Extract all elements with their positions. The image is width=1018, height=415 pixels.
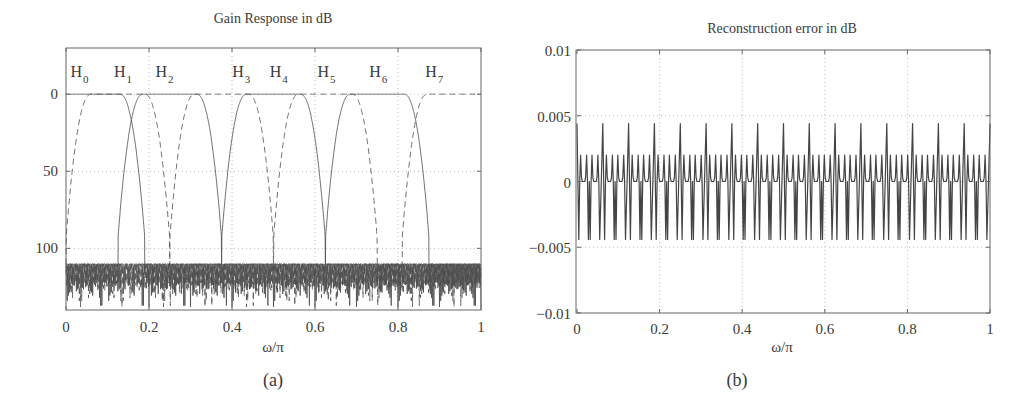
x-tick-label: 1 bbox=[477, 319, 485, 335]
x-tick-label: 0.4 bbox=[223, 319, 242, 335]
error-line bbox=[577, 124, 990, 240]
x-tick-label: 0 bbox=[573, 321, 581, 337]
band-label-h1: H1 bbox=[114, 63, 132, 85]
error-curve bbox=[577, 124, 990, 240]
x-tick-label: 0.2 bbox=[650, 321, 669, 337]
reconstruction-error-chart: Reconstruction error in dB 00.20.40.60.8… bbox=[509, 0, 1018, 415]
chart-title: Gain Response in dB bbox=[214, 11, 333, 26]
x-tick-label: 0.8 bbox=[389, 319, 408, 335]
axis-ticks: 00.20.40.60.81050100 bbox=[36, 48, 485, 335]
x-tick-label: 0.6 bbox=[815, 321, 834, 337]
x-tick-label: 0.2 bbox=[140, 319, 159, 335]
filter-curves bbox=[66, 94, 481, 307]
y-tick-label: 0.005 bbox=[537, 109, 571, 125]
x-tick-label: 0.4 bbox=[733, 321, 752, 337]
plot-frame bbox=[576, 50, 990, 313]
band-label-h0: H0 bbox=[70, 63, 89, 85]
x-axis-label: ω/π bbox=[262, 339, 284, 355]
x-tick-label: 0.6 bbox=[306, 319, 325, 335]
y-tick-label: 100 bbox=[36, 240, 59, 256]
x-tick-label: 0 bbox=[62, 319, 70, 335]
y-tick-label: 0.01 bbox=[545, 43, 571, 59]
gain-response-chart: Gain Response in dB H0H1H2H3H4H5H6H7 00.… bbox=[0, 0, 509, 415]
y-tick-label: 50 bbox=[43, 163, 58, 179]
figure-caption: (a) bbox=[263, 370, 283, 391]
x-axis-label: ω/π bbox=[771, 339, 793, 355]
chart-title: Reconstruction error in dB bbox=[707, 21, 857, 36]
gain-response-plot: Gain Response in dB H0H1H2H3H4H5H6H7 00.… bbox=[0, 0, 509, 415]
y-tick-label: 0 bbox=[51, 86, 59, 102]
band-label-h3: H3 bbox=[232, 63, 251, 85]
band-labels: H0H1H2H3H4H5H6H7 bbox=[70, 63, 443, 85]
y-tick-label: −0.01 bbox=[536, 306, 571, 322]
band-label-h7: H7 bbox=[425, 63, 444, 85]
y-tick-label: 0 bbox=[564, 175, 572, 191]
band-label-h5: H5 bbox=[317, 63, 336, 85]
band-label-h2: H2 bbox=[156, 63, 174, 85]
reconstruction-error-plot: Reconstruction error in dB 00.20.40.60.8… bbox=[509, 0, 1018, 415]
x-tick-label: 1 bbox=[986, 321, 994, 337]
x-tick-label: 0.8 bbox=[898, 321, 917, 337]
figure-caption: (b) bbox=[727, 370, 748, 391]
band-label-h6: H6 bbox=[369, 63, 388, 85]
y-tick-label: −0.005 bbox=[529, 240, 571, 256]
band-label-h4: H4 bbox=[270, 63, 289, 85]
